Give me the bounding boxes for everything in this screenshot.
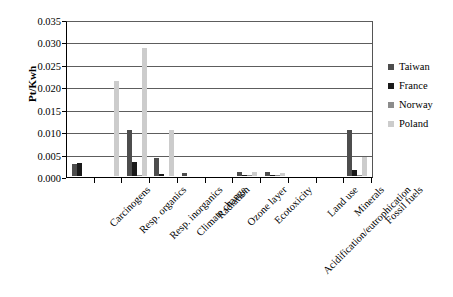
bar[interactable] <box>362 157 367 176</box>
y-axis-tick-label: 0.020 <box>15 83 61 94</box>
bar-group <box>68 23 96 176</box>
y-axis-tick-mark <box>62 178 66 179</box>
bar-chart-figure: Pt/Kwh 0.0000.0050.0100.0150.0200.0250.0… <box>0 0 453 297</box>
legend-item[interactable]: France <box>388 76 452 95</box>
x-axis-tick <box>150 178 178 183</box>
plot-region: 0.0000.0050.0100.0150.0200.0250.0300.035 <box>66 21 373 178</box>
legend-label: Taiwan <box>399 61 430 72</box>
x-axis-ticks <box>67 178 372 183</box>
y-axis-tick-label: 0.010 <box>15 128 61 139</box>
legend-item[interactable]: Norway <box>388 95 452 114</box>
legend-swatch-icon <box>388 121 394 127</box>
bar-group <box>233 23 261 176</box>
x-axis-tick <box>178 178 206 183</box>
legend-label: Poland <box>399 118 428 129</box>
y-axis-tick-mark <box>62 133 66 134</box>
y-axis-tick-mark <box>62 43 66 44</box>
y-axis-tick-mark <box>62 156 66 157</box>
y-axis-tick-label: 0.000 <box>15 173 61 184</box>
x-axis-tick <box>233 178 261 183</box>
bar-group <box>316 23 344 176</box>
legend-label: Norway <box>399 99 433 110</box>
x-axis-tick <box>261 178 289 183</box>
legend-swatch-icon <box>388 64 394 70</box>
y-axis-tick-mark <box>62 21 66 22</box>
y-axis-tick-label: 0.015 <box>15 105 61 116</box>
y-axis-tick-label: 0.030 <box>15 38 61 49</box>
x-axis-tick <box>67 178 95 183</box>
legend-item[interactable]: Poland <box>388 114 452 133</box>
x-axis-tick <box>95 178 123 183</box>
bar[interactable] <box>114 81 119 176</box>
x-axis-labels: CarcinogensResp. organicsResp. inorganic… <box>66 184 373 294</box>
bar[interactable] <box>142 48 147 176</box>
legend-swatch-icon <box>388 83 394 89</box>
x-axis-tick <box>344 178 372 183</box>
bar-groups <box>68 23 371 176</box>
bar[interactable] <box>169 130 174 176</box>
gridline <box>67 21 372 22</box>
y-axis-tick-mark <box>62 88 66 89</box>
chart-legend: TaiwanFranceNorwayPoland <box>388 57 452 133</box>
bar[interactable] <box>159 174 164 176</box>
x-axis-tick <box>206 178 234 183</box>
bar-group <box>123 23 151 176</box>
legend-label: France <box>399 80 428 91</box>
bar[interactable] <box>252 172 257 176</box>
x-axis-tick <box>122 178 150 183</box>
legend-item[interactable]: Taiwan <box>388 57 452 76</box>
y-axis-tick-mark <box>62 111 66 112</box>
y-axis-tick-label: 0.005 <box>15 150 61 161</box>
x-axis-tick <box>317 178 345 183</box>
bar[interactable] <box>347 130 352 176</box>
bar-group <box>343 23 371 176</box>
bar-group <box>261 23 289 176</box>
x-axis-tick <box>289 178 317 183</box>
legend-swatch-icon <box>388 102 394 108</box>
y-axis-tick-label: 0.025 <box>15 60 61 71</box>
bar-group <box>206 23 234 176</box>
bar-group <box>178 23 206 176</box>
bar[interactable] <box>182 173 187 176</box>
bar[interactable] <box>77 163 82 176</box>
plot-area <box>66 21 373 178</box>
bar-group <box>96 23 124 176</box>
bar[interactable] <box>280 173 285 176</box>
y-axis-tick-mark <box>62 66 66 67</box>
bar-group <box>151 23 179 176</box>
bar-group <box>288 23 316 176</box>
y-axis-tick-label: 0.035 <box>15 16 61 27</box>
